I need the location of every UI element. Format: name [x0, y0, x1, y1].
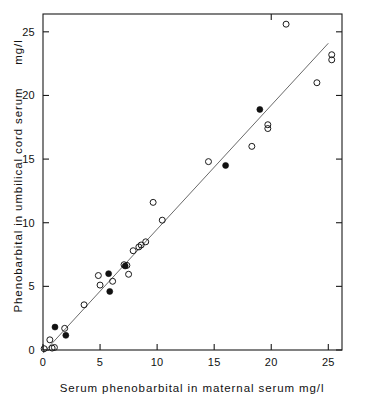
x-tick-label: 25 — [322, 356, 335, 368]
x-tick-label: 5 — [97, 356, 103, 368]
x-tick-label: 0 — [40, 356, 46, 368]
data-point-open — [81, 302, 87, 308]
data-point-filled — [223, 162, 229, 168]
tick-marks — [43, 14, 342, 350]
scatter-plot-figure: 05101520250510152025 Serum phenobarbital… — [0, 0, 381, 400]
data-point-open — [110, 278, 116, 284]
y-tick-label: 25 — [22, 26, 35, 38]
data-point-open — [205, 159, 211, 165]
data-point-filled — [63, 332, 69, 338]
data-point-open — [265, 126, 271, 132]
y-tick-label: 0 — [29, 344, 35, 356]
data-point-filled — [106, 271, 112, 277]
data-point-open — [159, 217, 165, 223]
data-point-open — [47, 337, 53, 343]
data-point-open — [95, 273, 101, 279]
data-point-open — [62, 325, 68, 331]
x-axis-title: Serum phenobarbital in maternal serum mg… — [60, 382, 325, 394]
plot-canvas: 05101520250510152025 Serum phenobarbital… — [0, 0, 381, 400]
data-point-open — [41, 346, 47, 352]
x-tick-label: 15 — [208, 356, 221, 368]
data-point-open — [314, 80, 320, 86]
y-axis-title: Phenobarbital in umbilical cord serum — [12, 87, 24, 312]
data-point-open — [150, 199, 156, 205]
y-axis-units-label: mg/l — [12, 39, 24, 64]
y-tick-label: 15 — [22, 153, 35, 165]
data-point-open — [97, 282, 103, 288]
data-point-filled — [122, 263, 128, 269]
data-point-filled — [52, 324, 58, 330]
axes-box — [43, 14, 342, 350]
data-point-filled — [257, 106, 263, 112]
x-tick-label: 20 — [265, 356, 278, 368]
data-point-open — [249, 143, 255, 149]
y-tick-label: 20 — [22, 89, 35, 101]
data-point-open — [126, 271, 132, 277]
data-point-filled — [107, 288, 113, 294]
plot-frame — [43, 14, 342, 350]
data-points — [41, 21, 335, 352]
data-point-open — [283, 21, 289, 27]
data-point-open — [130, 248, 136, 254]
x-tick-label: 10 — [151, 356, 164, 368]
y-tick-label: 10 — [22, 217, 35, 229]
tick-labels: 05101520250510152025 — [22, 26, 335, 368]
y-tick-label: 5 — [29, 280, 35, 292]
